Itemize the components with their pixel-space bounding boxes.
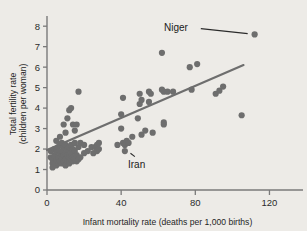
data-point	[148, 91, 154, 97]
y-tick-label-7: 7	[35, 41, 40, 52]
y-tick-label-5: 5	[35, 82, 40, 93]
data-point	[61, 121, 67, 127]
plot-area: 01234567804080120NigerIranInfant mortali…	[0, 0, 307, 231]
data-points-group	[48, 31, 258, 170]
data-point	[114, 142, 120, 148]
data-point	[64, 115, 70, 121]
data-point	[142, 128, 148, 134]
data-point	[72, 128, 78, 134]
y-axis-title-line1: Total fertility rate	[8, 73, 18, 136]
data-point	[68, 105, 74, 111]
data-point	[118, 111, 124, 117]
x-tick-label-120: 120	[262, 197, 278, 208]
y-tick-label-2: 2	[35, 143, 40, 154]
data-point	[62, 130, 68, 136]
data-point	[164, 89, 170, 95]
data-point	[138, 97, 144, 103]
data-point	[159, 50, 165, 56]
data-point	[75, 89, 81, 95]
annotation-leader-line-iran	[130, 153, 134, 156]
x-tick-label-0: 0	[44, 197, 49, 208]
data-point	[194, 61, 200, 67]
data-point	[120, 95, 126, 101]
data-point	[57, 134, 63, 140]
data-point	[118, 125, 124, 131]
y-tick-label-8: 8	[35, 21, 40, 32]
data-point	[189, 87, 195, 93]
data-point	[74, 121, 80, 127]
data-point	[170, 89, 176, 95]
data-point	[96, 140, 102, 146]
x-axis-title: Infant mortality rate (deaths per 1,000 …	[83, 217, 253, 227]
y-tick-label-4: 4	[35, 102, 40, 113]
data-point	[129, 134, 135, 140]
trend-line	[47, 65, 244, 150]
scatter-chart: 01234567804080120NigerIranInfant mortali…	[0, 0, 307, 231]
data-point	[81, 142, 87, 148]
annotation-label-iran: Iran	[128, 159, 145, 170]
data-point	[220, 83, 226, 89]
data-point	[96, 146, 102, 152]
data-point	[146, 99, 152, 105]
data-point	[150, 130, 156, 136]
y-tick-label-1: 1	[35, 164, 40, 175]
x-tick-label-40: 40	[116, 197, 127, 208]
data-point	[125, 140, 131, 146]
y-tick-label-3: 3	[35, 123, 40, 134]
y-tick-label-0: 0	[35, 184, 40, 195]
data-point	[161, 119, 167, 125]
data-point	[122, 148, 128, 154]
data-point	[135, 115, 141, 121]
data-point	[187, 64, 193, 70]
y-tick-label-6: 6	[35, 62, 40, 73]
data-point	[252, 31, 258, 37]
annotation-leader-line-niger	[201, 29, 248, 34]
annotation-label-niger: Niger	[164, 22, 189, 33]
x-tick-label-80: 80	[190, 197, 201, 208]
data-point	[137, 91, 143, 97]
y-axis-title-line2: (children per woman)	[18, 64, 28, 145]
data-point	[239, 112, 245, 118]
